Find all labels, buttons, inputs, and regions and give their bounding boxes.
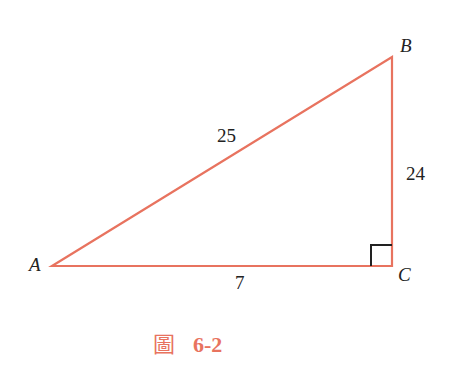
side-label-ac: 7 <box>235 272 245 294</box>
figure-caption: 圖6-2 <box>153 326 222 358</box>
side-label-ab: 25 <box>217 125 236 147</box>
caption-number: 6-2 <box>193 332 222 357</box>
right-angle-marker <box>371 245 392 266</box>
triangle-abc <box>52 57 392 266</box>
side-label-bc: 24 <box>406 163 425 185</box>
caption-prefix: 圖 <box>153 332 175 357</box>
vertex-label-a: A <box>29 254 41 276</box>
triangle-diagram <box>0 0 460 374</box>
vertex-label-b: B <box>400 35 412 57</box>
vertex-label-c: C <box>398 264 411 286</box>
